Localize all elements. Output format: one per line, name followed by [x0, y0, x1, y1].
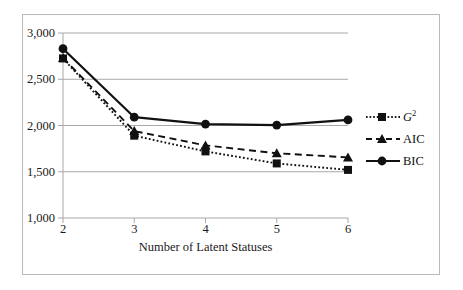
legend-label-aic: AIC: [403, 132, 425, 147]
legend-swatch-dotted-square-icon: [366, 110, 400, 124]
y-tick-label-1500: 1,500: [27, 164, 55, 179]
x-tick-label-5: 5: [274, 222, 280, 237]
legend-item-g2[interactable]: G2: [366, 106, 436, 128]
x-tick-label-6: 6: [345, 222, 351, 237]
x-axis-title: Number of Latent Statuses: [63, 240, 348, 255]
data-point-bic-x3: [130, 113, 139, 122]
y-tick-label-1000: 1,000: [27, 211, 55, 226]
data-point-bic-x5: [272, 121, 281, 130]
chart-figure: 3,000 2,500 2,000 1,500 1,000 2 3 4 5 6 …: [0, 0, 463, 290]
legend-label-g2-text: G: [403, 111, 412, 125]
x-tick-label-3: 3: [131, 222, 137, 237]
legend-swatch-dashed-triangle-icon: [366, 132, 400, 146]
legend-swatch-solid-circle-icon: [366, 154, 400, 168]
legend-item-aic[interactable]: AIC: [366, 128, 436, 150]
plot-area: [63, 33, 348, 218]
data-point-bic-x4: [201, 120, 210, 129]
y-tick-label-2000: 2,000: [27, 118, 55, 133]
plot-svg: [63, 33, 348, 218]
x-tick-label-2: 2: [60, 222, 66, 237]
x-axis-tick-labels: 2 3 4 5 6: [63, 222, 348, 240]
data-point-bic-x6: [344, 116, 353, 125]
y-axis-tick-labels: 3,000 2,500 2,000 1,500 1,000: [0, 33, 55, 218]
series-line-bic: [63, 49, 348, 125]
y-tick-label-2500: 2,500: [27, 72, 55, 87]
data-point-bic-x2: [59, 44, 68, 53]
legend-item-bic[interactable]: BIC: [366, 150, 436, 172]
data-point-g2-x6: [344, 166, 352, 174]
legend-label-g2-superscript: 2: [412, 108, 416, 118]
y-tick-label-3000: 3,000: [27, 26, 55, 41]
x-tick-label-4: 4: [202, 222, 208, 237]
chart-legend: G2 AIC BIC: [366, 106, 436, 172]
legend-label-bic: BIC: [403, 154, 424, 169]
axis-tick-marks: [58, 33, 348, 223]
legend-label-g2: G2: [403, 108, 416, 125]
data-point-g2-x5: [273, 159, 281, 167]
